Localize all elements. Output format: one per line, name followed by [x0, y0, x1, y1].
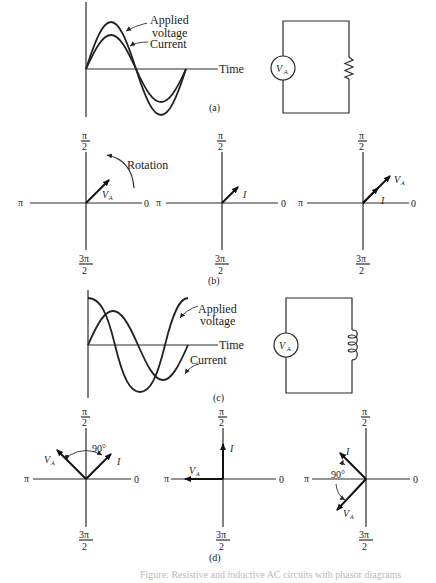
svg-text:A: A: [195, 471, 200, 477]
circuit-a-resistive: V A: [271, 21, 353, 113]
ac-source-icon: [274, 333, 298, 357]
voltage-phasor: [337, 479, 366, 510]
svg-text:0: 0: [411, 198, 416, 209]
phasor-diagram-b1: π 2 π 0 3π 2 V A Rotation: [18, 130, 168, 276]
svg-text:0: 0: [279, 474, 284, 485]
panel-c: Applied voltage Current Time (c) V A: [88, 290, 357, 404]
svg-text:2: 2: [219, 417, 224, 428]
svg-text:I: I: [345, 446, 350, 457]
svg-text:π: π: [298, 197, 303, 208]
svg-text:2: 2: [218, 141, 223, 152]
voltage-label-leader: [180, 306, 198, 318]
svg-text:2: 2: [362, 541, 367, 552]
svg-text:π: π: [359, 130, 364, 141]
svg-text:3π: 3π: [359, 529, 369, 540]
svg-text:0: 0: [144, 198, 149, 209]
current-label: Current: [190, 353, 227, 367]
svg-text:2: 2: [82, 141, 87, 152]
graph-a-waveforms: Applied voltage Current Time (a): [86, 2, 244, 117]
panel-d: π 2 π 0 3π 2 90° V A I π 2 π 0 3π: [24, 406, 418, 564]
svg-text:3π: 3π: [215, 253, 225, 264]
svg-text:I: I: [242, 189, 247, 200]
time-axis-label: Time: [219, 62, 244, 76]
svg-text:2: 2: [82, 417, 87, 428]
svg-text:π: π: [82, 406, 87, 417]
svg-text:π: π: [219, 406, 224, 417]
svg-text:A: A: [108, 195, 113, 201]
current-phasor: [363, 188, 378, 203]
phasor-diagram-d2: π 2 π 0 3π 2 V A I: [164, 406, 284, 552]
voltage-label-leader: [126, 23, 147, 31]
source-label: V: [279, 340, 287, 351]
source-label: V: [276, 63, 284, 74]
svg-text:0: 0: [134, 474, 139, 485]
rotation-label: Rotation: [127, 158, 168, 172]
phasor-diagram-d3: π 2 π 0 3π 2 90° I V A: [304, 406, 418, 552]
svg-text:π: π: [24, 473, 29, 484]
ac-source-icon: [271, 56, 295, 80]
svg-text:π: π: [218, 130, 223, 141]
phasor-diagram-d1: π 2 π 0 3π 2 90° V A I: [24, 406, 139, 552]
panel-label: (b): [208, 275, 220, 287]
svg-text:2: 2: [362, 417, 367, 428]
svg-text:2: 2: [359, 265, 364, 276]
figure-canvas: Applied voltage Current Time (a) V A π 2…: [0, 0, 436, 583]
panel-a: Applied voltage Current Time (a) V A: [86, 2, 353, 117]
svg-text:A: A: [349, 514, 354, 520]
panel-label: (c): [213, 392, 224, 404]
svg-text:I: I: [116, 456, 121, 467]
circuit-c-inductive: V A: [274, 298, 357, 393]
current-phasor: [86, 454, 111, 479]
panel-label: (d): [209, 552, 221, 564]
angle-label: 90°: [92, 443, 106, 454]
angle-arc-icon: [336, 484, 345, 500]
svg-text:2: 2: [82, 265, 87, 276]
angle-arc-top-icon: [343, 460, 345, 465]
phasor-diagram-b2: π 2 π 0 3π 2 I: [156, 130, 286, 276]
svg-text:2: 2: [219, 541, 224, 552]
svg-text:3π: 3π: [216, 529, 226, 540]
figure-caption: Figure: Resistive and inductive AC circu…: [140, 569, 401, 580]
voltage-label-line1: Applied: [150, 13, 189, 27]
time-axis-label: Time: [219, 338, 244, 352]
svg-text:3π: 3π: [79, 253, 89, 264]
phasor-diagram-b3: π 2 π 0 3π 2 V A I: [298, 130, 416, 276]
svg-text:2: 2: [359, 141, 364, 152]
svg-text:I: I: [380, 195, 385, 206]
svg-text:π: π: [304, 473, 309, 484]
svg-text:π: π: [164, 473, 169, 484]
svg-text:A: A: [286, 346, 291, 352]
current-phasor: [222, 187, 238, 203]
svg-text:3π: 3π: [79, 529, 89, 540]
svg-text:π: π: [82, 130, 87, 141]
graph-c-waveforms: Applied voltage Current Time (c): [88, 290, 244, 404]
svg-text:A: A: [50, 460, 55, 466]
svg-text:A: A: [283, 69, 288, 75]
svg-text:π: π: [362, 406, 367, 417]
inductor-icon: [348, 330, 357, 360]
svg-text:0: 0: [281, 198, 286, 209]
svg-text:π: π: [18, 197, 23, 208]
current-label: Current: [150, 37, 187, 51]
svg-text:π: π: [156, 197, 161, 208]
svg-text:3π: 3π: [356, 253, 366, 264]
svg-text:A: A: [400, 180, 405, 186]
svg-text:2: 2: [82, 541, 87, 552]
angle-label: 90°: [331, 469, 345, 480]
resistor-icon: [345, 57, 353, 79]
svg-text:I: I: [229, 443, 234, 454]
svg-text:0: 0: [413, 474, 418, 485]
current-label-leader: [130, 42, 148, 46]
panel-b: π 2 π 0 3π 2 V A Rotation π 2 π 0 3π 2: [18, 130, 416, 287]
voltage-label-line2: voltage: [200, 314, 235, 328]
panel-label: (a): [209, 102, 220, 114]
